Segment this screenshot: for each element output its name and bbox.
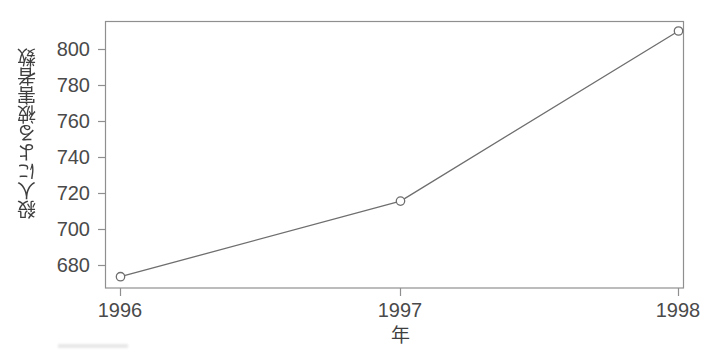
y-tick-label-800: 800	[34, 39, 90, 59]
y-tick-label-720: 720	[34, 183, 90, 203]
y-tick-label-700: 700	[34, 219, 90, 239]
x-axis-title: 年	[391, 326, 410, 345]
y-tick-label-740: 740	[34, 147, 90, 167]
data-point-marker	[674, 27, 682, 35]
chart-figure: 680 700 720 740 760 780 800 1996 1997 19…	[0, 0, 712, 354]
y-tick-marks	[98, 50, 106, 266]
data-point-marker	[396, 197, 404, 205]
y-axis-title: 殺人による被害者数	[18, 48, 37, 219]
x-tick-marks	[121, 288, 679, 296]
y-tick-label-780: 780	[34, 75, 90, 95]
data-series-line	[121, 31, 679, 277]
x-tick-label-1998: 1998	[656, 300, 701, 320]
data-point-marker	[116, 273, 124, 281]
scan-artifact	[58, 344, 128, 348]
plot-frame	[106, 22, 684, 289]
x-tick-label-1996: 1996	[98, 300, 143, 320]
x-tick-label-1997: 1997	[378, 300, 423, 320]
data-point-markers	[116, 27, 682, 281]
y-tick-label-760: 760	[34, 111, 90, 131]
y-tick-label-680: 680	[34, 255, 90, 275]
